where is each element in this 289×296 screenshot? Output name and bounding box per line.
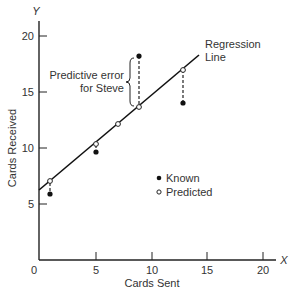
x-tick-20: 20 (257, 264, 269, 276)
predicted-point (181, 68, 186, 73)
x-ticks: 0 5 10 15 20 (31, 252, 269, 276)
y-axis-label: Cards Received (6, 109, 18, 187)
annotation-brace (126, 58, 134, 106)
x-axis-letter: X (279, 254, 288, 266)
legend-predicted-marker (157, 190, 161, 194)
legend-known-label: Known (166, 172, 200, 184)
x-tick-0: 0 (31, 264, 37, 276)
y-axis-letter: Y (32, 5, 40, 17)
legend-predicted-label: Predicted (166, 186, 212, 198)
annotation-line-2: for Steve (80, 82, 124, 94)
regression-line-label-2: Line (205, 51, 226, 63)
y-tick-20: 20 (22, 30, 34, 42)
predicted-point (48, 179, 53, 184)
regression-chart: Y X 20 15 10 5 0 5 10 15 20 Cards Sent C… (0, 0, 289, 296)
y-tick-10: 10 (22, 142, 34, 154)
x-tick-10: 10 (146, 264, 158, 276)
y-ticks: 20 15 10 5 (22, 30, 47, 210)
predicted-point (94, 142, 99, 147)
predicted-point (137, 105, 142, 110)
known-point (136, 53, 141, 58)
x-axis-label: Cards Sent (124, 277, 179, 289)
y-tick-5: 5 (28, 198, 34, 210)
x-tick-15: 15 (201, 264, 213, 276)
predicted-point (116, 122, 121, 127)
x-tick-5: 5 (93, 264, 99, 276)
regression-line-label-1: Regression (205, 38, 261, 50)
known-point (93, 149, 98, 154)
legend: Known Predicted (157, 172, 213, 198)
annotation-line-1: Predictive error (49, 69, 124, 81)
known-point (180, 100, 185, 105)
y-tick-15: 15 (22, 86, 34, 98)
legend-known-marker (157, 176, 162, 181)
known-point (47, 191, 52, 196)
